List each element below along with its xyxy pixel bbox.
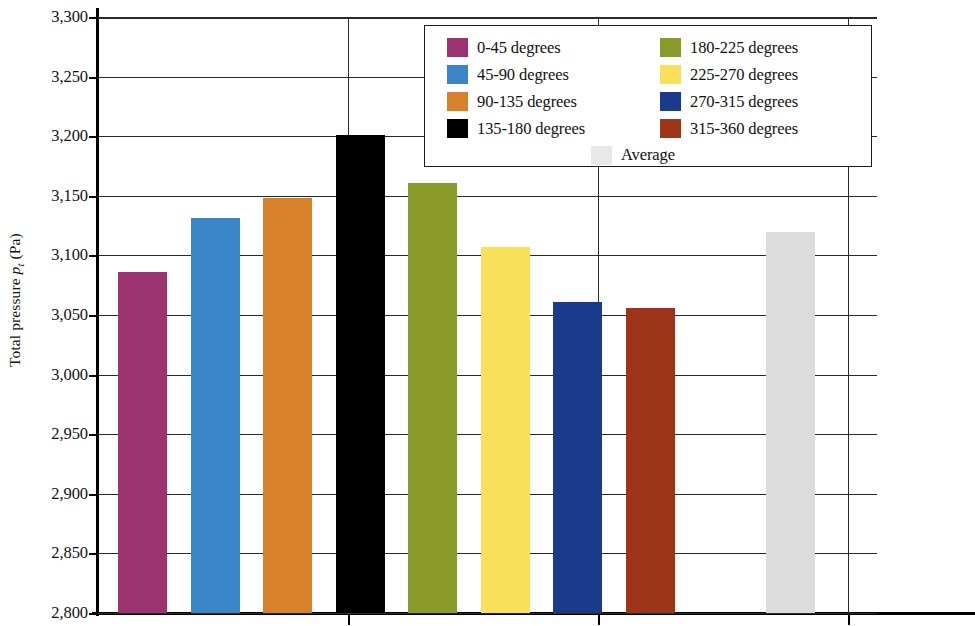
legend-label: 180-225 degrees <box>690 38 798 58</box>
y-tick-mark <box>89 494 98 496</box>
legend-item-0: 0-45 degrees <box>447 35 642 60</box>
legend-label: 135-180 degrees <box>477 119 585 139</box>
bar <box>766 232 815 613</box>
legend-item-3: 135-180 degrees <box>447 116 642 141</box>
y-tick-label: 2,800 <box>26 603 88 623</box>
bar <box>481 247 530 613</box>
x-tick-mark <box>598 615 600 625</box>
y-tick-label: 2,850 <box>26 543 88 563</box>
legend-item-average: Average <box>425 142 871 168</box>
y-tick-mark <box>89 315 98 317</box>
bar <box>336 135 385 613</box>
legend-item-3: 315-360 degrees <box>660 116 855 141</box>
legend-column-right: 180-225 degrees225-270 degrees270-315 de… <box>660 35 855 141</box>
legend-swatch <box>660 92 681 111</box>
legend-swatch <box>447 119 468 138</box>
legend-label: 0-45 degrees <box>477 38 561 58</box>
legend-label: 45-90 degrees <box>477 65 569 85</box>
y-tick-label: 3,100 <box>26 245 88 265</box>
bar <box>408 183 457 613</box>
y-tick-label: 3,250 <box>26 67 88 87</box>
bar <box>626 308 675 613</box>
y-tick-mark <box>89 136 98 138</box>
legend-item-2: 90-135 degrees <box>447 89 642 114</box>
bar <box>553 302 602 613</box>
y-tick-label: 3,300 <box>26 7 88 27</box>
y-tick-label: 2,900 <box>26 484 88 504</box>
legend-label-average: Average <box>621 145 675 165</box>
legend-swatch <box>660 65 681 84</box>
x-tick-mark <box>348 615 350 625</box>
y-tick-label: 3,000 <box>26 365 88 385</box>
legend-item-2: 270-315 degrees <box>660 89 855 114</box>
y-tick-mark <box>89 434 98 436</box>
legend-swatch <box>447 38 468 57</box>
y-tick-label: 2,950 <box>26 424 88 444</box>
y-tick-mark <box>89 77 98 79</box>
legend-label: 270-315 degrees <box>690 92 798 112</box>
y-tick-label: 3,200 <box>26 126 88 146</box>
legend-swatch <box>447 92 468 111</box>
y-tick-mark <box>89 196 98 198</box>
legend-label: 90-135 degrees <box>477 92 577 112</box>
gridline-horizontal <box>98 196 877 197</box>
legend-swatch <box>660 38 681 57</box>
legend-label: 225-270 degrees <box>690 65 798 85</box>
legend-swatch <box>660 119 681 138</box>
y-tick-label: 3,150 <box>26 186 88 206</box>
y-tick-mark <box>89 613 98 615</box>
legend-item-1: 225-270 degrees <box>660 62 855 87</box>
legend-label: 315-360 degrees <box>690 119 798 139</box>
legend: 0-45 degrees45-90 degrees90-135 degrees1… <box>424 25 872 167</box>
legend-column-left: 0-45 degrees45-90 degrees90-135 degrees1… <box>447 35 642 141</box>
y-tick-label: 3,050 <box>26 305 88 325</box>
bar <box>118 272 167 613</box>
gridline-horizontal <box>98 613 877 614</box>
x-tick-mark <box>848 615 850 625</box>
legend-item-0: 180-225 degrees <box>660 35 855 60</box>
y-axis-tick-labels: 3,3003,2503,2003,1503,1003,0503,0002,950… <box>20 0 88 626</box>
legend-swatch <box>447 65 468 84</box>
bar <box>191 218 240 613</box>
legend-columns: 0-45 degrees45-90 degrees90-135 degrees1… <box>425 35 871 141</box>
y-tick-mark <box>89 17 98 19</box>
bar <box>263 198 312 613</box>
legend-swatch-average <box>591 146 612 165</box>
y-tick-mark <box>89 255 98 257</box>
legend-item-1: 45-90 degrees <box>447 62 642 87</box>
gridline-horizontal <box>98 17 877 19</box>
y-tick-mark <box>89 553 98 555</box>
y-tick-mark <box>89 375 98 377</box>
y-axis-line <box>96 8 99 616</box>
